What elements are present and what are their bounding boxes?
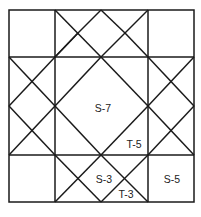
top-diag-4	[125, 33, 148, 57]
center-diamond-1	[101, 57, 148, 106]
center-diamond-4	[55, 57, 101, 106]
top-diag-5	[78, 10, 101, 33]
corner-tl	[55, 33, 78, 57]
top-diag-6	[101, 10, 125, 33]
quilt-block-diagram: S-7 T-5 S-3 T-3 S-5	[0, 0, 201, 217]
label-t5: T-5	[126, 138, 141, 150]
label-s5: S-5	[164, 173, 181, 185]
label-s3: S-3	[96, 173, 113, 185]
label-s7: S-7	[95, 102, 112, 114]
label-t3: T-3	[118, 188, 133, 200]
